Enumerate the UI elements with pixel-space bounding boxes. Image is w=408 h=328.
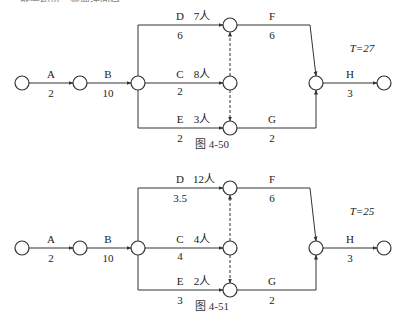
- event-node-5: [223, 76, 237, 90]
- activity-name-A: A: [47, 68, 55, 80]
- activity-duration-F: 6: [269, 192, 275, 204]
- event-node-1: [15, 241, 29, 255]
- event-node-8: [377, 76, 391, 90]
- event-node-2: [73, 241, 87, 255]
- activity-workers-E: 2人: [194, 275, 211, 287]
- activity-duration-G: 2: [269, 132, 275, 144]
- activity-duration-H: 3: [347, 252, 353, 264]
- activity-duration-B: 10: [103, 252, 115, 264]
- event-node-4: [223, 18, 237, 32]
- event-node-7: [309, 241, 323, 255]
- activity-name-H: H: [346, 68, 354, 80]
- event-node-3: [131, 76, 145, 90]
- activity-workers-C: 4人: [194, 233, 211, 245]
- activity-arrow-G: [237, 255, 316, 290]
- activity-name-F: F: [269, 10, 275, 22]
- event-node-4: [223, 181, 237, 195]
- event-node-2: [73, 76, 87, 90]
- activity-workers-D: 12人: [193, 173, 215, 185]
- event-node-6: [223, 121, 237, 135]
- activity-workers-C: 8人: [194, 68, 211, 80]
- activity-name-D: D: [176, 10, 184, 22]
- activity-duration-B: 10: [103, 87, 115, 99]
- activity-name-C: C: [176, 233, 183, 245]
- activity-duration-C: 2: [177, 85, 183, 97]
- activity-duration-C: 4: [177, 250, 183, 262]
- event-node-8: [377, 241, 391, 255]
- event-node-7: [309, 76, 323, 90]
- total-duration-label: T=25: [350, 205, 375, 217]
- activity-name-A: A: [47, 233, 55, 245]
- activity-duration-D: 6: [177, 29, 183, 41]
- activity-duration-D: 3.5: [173, 192, 187, 204]
- activity-duration-H: 3: [347, 87, 353, 99]
- activity-workers-E: 3人: [194, 113, 211, 125]
- event-node-6: [223, 283, 237, 297]
- activity-duration-F: 6: [269, 29, 275, 41]
- figure-caption: 图 4-51: [195, 300, 229, 312]
- activity-duration-A: 2: [48, 252, 54, 264]
- activity-name-F: F: [269, 173, 275, 185]
- activity-name-E: E: [177, 275, 184, 287]
- activity-name-B: B: [104, 233, 111, 245]
- event-node-5: [223, 241, 237, 255]
- activity-workers-D: 7人: [194, 10, 211, 22]
- activity-duration-E: 3: [177, 294, 183, 306]
- activity-name-G: G: [268, 275, 276, 287]
- activity-name-D: D: [176, 173, 184, 185]
- total-duration-label: T=27: [350, 42, 375, 54]
- activity-name-E: E: [177, 113, 184, 125]
- activity-duration-G: 2: [269, 294, 275, 306]
- activity-name-H: H: [346, 233, 354, 245]
- activity-name-G: G: [268, 113, 276, 125]
- event-node-1: [15, 76, 29, 90]
- activity-name-C: C: [176, 68, 183, 80]
- activity-duration-A: 2: [48, 87, 54, 99]
- activity-arrow-G: [237, 90, 316, 128]
- activity-duration-E: 2: [177, 132, 183, 144]
- activity-arrow-F: [237, 25, 316, 76]
- network-diagrams: A2B10D67人C28人E23人F6G2H3T=27图 4-50A2B10D3…: [0, 0, 408, 328]
- activity-name-B: B: [104, 68, 111, 80]
- event-node-3: [131, 241, 145, 255]
- activity-arrow-F: [237, 188, 316, 241]
- figure-caption: 图 4-50: [195, 138, 229, 150]
